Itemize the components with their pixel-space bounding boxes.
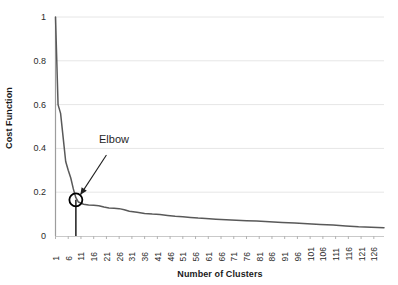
x-tick-label: 46 xyxy=(166,252,176,261)
x-axis-title-wrap: Number of Clusters xyxy=(55,263,385,281)
elbow-arrow-line xyxy=(80,155,106,195)
x-tick-label: 96 xyxy=(293,252,303,261)
x-tick-label: 66 xyxy=(217,252,227,261)
x-tick-label: 31 xyxy=(127,252,137,261)
x-tick-label: 81 xyxy=(255,252,265,261)
x-tick-label: 61 xyxy=(204,252,214,261)
x-tick-label: 116 xyxy=(344,247,354,261)
x-tick-label: 86 xyxy=(267,252,277,261)
gridlines xyxy=(56,17,385,236)
x-tick-label: 51 xyxy=(178,252,188,261)
x-tick-label: 21 xyxy=(102,252,112,261)
x-tick-label: 111 xyxy=(331,248,341,261)
x-tick-label: 106 xyxy=(318,247,328,261)
x-tick-label: 1 xyxy=(51,256,61,261)
x-tick-label: 16 xyxy=(89,252,99,261)
x-tick-label: 71 xyxy=(229,252,239,261)
x-tick-label: 76 xyxy=(242,252,252,261)
x-tick-label: 56 xyxy=(191,252,201,261)
x-tick-label: 36 xyxy=(140,252,150,261)
x-axis-title: Number of Clusters xyxy=(177,269,262,279)
x-axis-tick-labels: 1611162126313641465156616671768186919610… xyxy=(0,239,398,261)
elbow-method-chart: Cost Function 00.20.40.60.81 Elbow 16111… xyxy=(0,0,398,285)
cost-function-line xyxy=(56,17,385,228)
x-tick-label: 6 xyxy=(64,256,74,261)
elbow-annotation-label: Elbow xyxy=(99,133,129,145)
x-tick-label: 11 xyxy=(76,252,86,261)
x-tick-label: 126 xyxy=(369,247,379,261)
x-tick-label: 26 xyxy=(115,252,125,261)
x-tick-label: 101 xyxy=(306,247,316,261)
elbow-arrow-head xyxy=(80,187,86,195)
x-tick-label: 91 xyxy=(280,252,290,261)
x-tick-label: 41 xyxy=(153,252,163,261)
x-tick-label: 121 xyxy=(357,247,367,261)
